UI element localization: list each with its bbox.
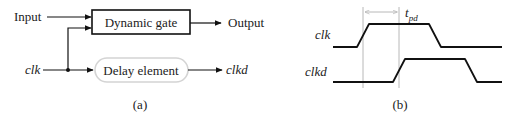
clk-wave-label: clk: [315, 27, 330, 42]
figure-canvas: Input Dynamic gate Output clk Delay elem…: [0, 0, 523, 124]
caption-b: (b): [392, 97, 407, 112]
clk-input-label: clk: [25, 62, 40, 77]
dynamic-gate-label: Dynamic gate: [105, 15, 178, 30]
output-label: Output: [228, 15, 265, 30]
input-label: Input: [14, 9, 42, 24]
tpd-label: tpd: [405, 5, 418, 23]
clkd-waveform: [333, 59, 502, 82]
caption-a: (a): [133, 97, 147, 112]
clkd-output-label: clkd: [226, 62, 248, 77]
clk-to-gate-arrow: [68, 28, 91, 70]
panel-a-block-diagram: Input Dynamic gate Output clk Delay elem…: [14, 9, 265, 112]
clkd-wave-label: clkd: [305, 64, 327, 79]
panel-b-timing-diagram: tpd clk clkd (b): [305, 5, 502, 112]
delay-element-label: Delay element: [103, 63, 179, 78]
clk-waveform: [333, 24, 502, 47]
